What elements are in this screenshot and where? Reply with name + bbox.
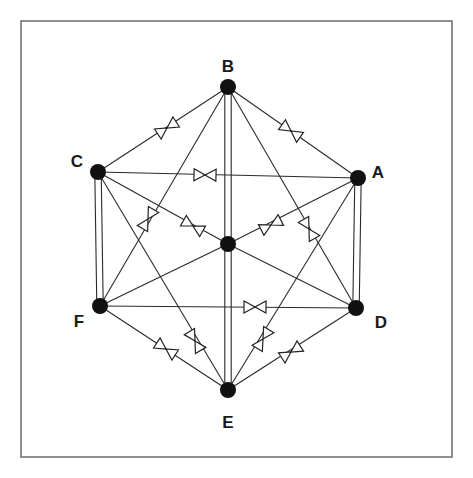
node-c xyxy=(90,164,106,180)
diagram-frame xyxy=(21,21,452,457)
node-label-b: B xyxy=(222,57,234,76)
valve-icon xyxy=(180,215,205,236)
edge-c-a-pipe xyxy=(98,172,358,178)
node-f xyxy=(92,298,108,314)
edge-c-o-pipe xyxy=(98,172,228,244)
valve-icon xyxy=(137,206,158,231)
edge-c-f-double-pipe xyxy=(95,172,97,306)
edge-a-d-double-pipe xyxy=(359,178,361,308)
node-b xyxy=(220,79,236,95)
edge-o-f-pipe xyxy=(100,244,228,306)
edge-a-d-double-pipe xyxy=(353,178,355,308)
node-a xyxy=(350,170,366,186)
valve-icon xyxy=(155,117,180,139)
node-label-a: A xyxy=(372,163,384,182)
valve-icon xyxy=(154,338,179,360)
edge-f-d-pipe xyxy=(100,306,356,308)
valve-icon xyxy=(194,169,216,182)
node-d xyxy=(348,300,364,316)
node-label-e: E xyxy=(222,413,233,432)
valve-icon xyxy=(279,341,304,363)
edge-c-e-pipe xyxy=(98,172,228,390)
valve-icon xyxy=(184,328,206,353)
valve-icon xyxy=(298,216,319,241)
valve-icon xyxy=(258,215,283,236)
edge-b-d-pipe xyxy=(228,87,356,308)
edge-b-f-pipe xyxy=(100,87,228,306)
valve-icon xyxy=(279,120,304,142)
node-e xyxy=(220,382,236,398)
node-label-f: F xyxy=(74,312,84,331)
node-label-c: C xyxy=(71,152,83,171)
valve-icon xyxy=(252,326,274,351)
edge-o-d-pipe xyxy=(228,244,356,308)
node-label-d: D xyxy=(375,313,387,332)
node-center xyxy=(220,236,236,252)
edge-a-e-pipe xyxy=(228,178,358,390)
edge-c-f-double-pipe xyxy=(101,172,103,306)
valve-icon xyxy=(244,301,266,313)
nodes-layer xyxy=(90,79,366,398)
edge-a-o-pipe xyxy=(228,178,358,244)
network-diagram: A B C D E F xyxy=(0,0,473,478)
